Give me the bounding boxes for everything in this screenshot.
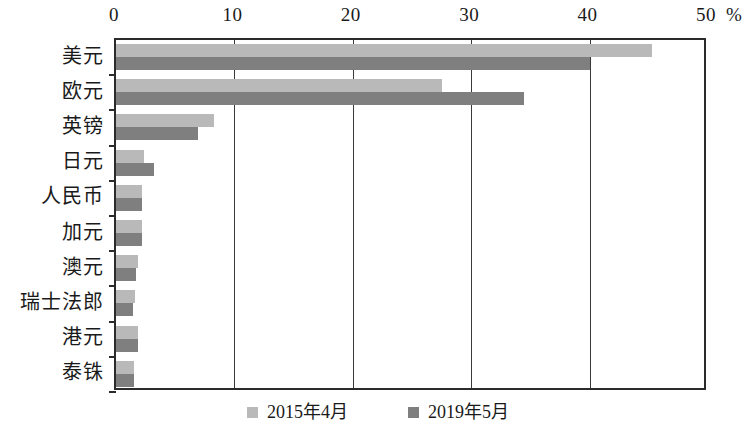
- plot-area: [114, 38, 706, 390]
- y-axis-category-labels: 美元欧元英镑日元人民币加元澳元瑞士法郎港元泰铢: [0, 38, 110, 390]
- bar: [116, 233, 142, 246]
- bar: [116, 326, 138, 339]
- bar: [116, 268, 136, 281]
- chart-legend: 2015年4月2019年5月: [0, 396, 756, 428]
- y-axis-category-label: 瑞士法郎: [20, 290, 104, 314]
- x-tick-label: 10: [212, 4, 252, 26]
- bar: [116, 163, 154, 176]
- legend-item[interactable]: 2019年5月: [408, 401, 509, 423]
- y-axis-category-label: 英镑: [62, 114, 104, 138]
- bar: [116, 44, 652, 57]
- y-axis-category-label: 人民币: [41, 184, 104, 208]
- x-axis-unit-label: %: [726, 4, 742, 26]
- bar: [116, 361, 134, 374]
- y-tick-mark: [109, 250, 116, 252]
- gridline: [590, 40, 591, 388]
- y-tick-mark: [109, 321, 116, 323]
- bar: [116, 114, 214, 127]
- legend-color-swatch: [408, 407, 419, 418]
- bar: [116, 290, 135, 303]
- x-tick-label: 0: [94, 4, 134, 26]
- bar: [116, 374, 134, 387]
- y-tick-mark: [109, 109, 116, 111]
- y-axis-category-label: 澳元: [62, 255, 104, 279]
- x-tick-label: 40: [568, 4, 608, 26]
- bar: [116, 150, 144, 163]
- legend-label: 2019年5月: [428, 401, 509, 423]
- y-axis-category-label: 日元: [62, 149, 104, 173]
- legend-color-swatch: [247, 407, 258, 418]
- y-tick-mark: [109, 180, 116, 182]
- bar: [116, 255, 138, 268]
- bar: [116, 198, 142, 211]
- y-tick-mark: [109, 215, 116, 217]
- y-tick-mark: [109, 356, 116, 358]
- legend-label: 2015年4月: [267, 401, 348, 423]
- y-tick-mark: [109, 285, 116, 287]
- y-tick-mark: [109, 391, 116, 393]
- bar: [116, 339, 138, 352]
- x-tick-label: 20: [331, 4, 371, 26]
- bar: [116, 57, 590, 70]
- bar: [116, 79, 442, 92]
- currency-share-bar-chart: 01020304050% 美元欧元英镑日元人民币加元澳元瑞士法郎港元泰铢 201…: [0, 0, 756, 428]
- y-tick-mark: [109, 74, 116, 76]
- x-tick-label: 30: [449, 4, 489, 26]
- x-axis: 01020304050%: [0, 0, 756, 32]
- bar: [116, 127, 198, 140]
- legend-item[interactable]: 2015年4月: [247, 401, 348, 423]
- y-axis-category-label: 港元: [62, 325, 104, 349]
- y-axis-category-label: 欧元: [62, 79, 104, 103]
- y-axis-category-label: 美元: [62, 44, 104, 68]
- bar: [116, 185, 142, 198]
- bar: [116, 303, 133, 316]
- bar: [116, 92, 524, 105]
- y-axis-category-label: 加元: [62, 220, 104, 244]
- bar: [116, 220, 142, 233]
- x-tick-label: 50: [686, 4, 726, 26]
- y-axis-category-label: 泰铢: [62, 360, 104, 384]
- y-tick-mark: [109, 145, 116, 147]
